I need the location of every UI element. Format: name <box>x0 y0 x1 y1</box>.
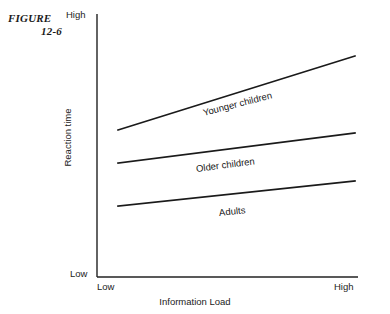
series-line-younger-children <box>118 56 355 130</box>
y-axis-title: Reaction time <box>62 68 73 208</box>
line-chart <box>0 0 390 314</box>
y-axis-tick-low: Low <box>70 268 87 279</box>
y-axis-tick-high: High <box>66 9 86 20</box>
series-line-adults <box>118 181 355 206</box>
x-axis-tick-high: High <box>334 281 354 292</box>
x-axis-tick-low: Low <box>97 281 114 292</box>
x-axis-title: Information Load <box>0 296 390 307</box>
